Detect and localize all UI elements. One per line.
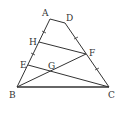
label-E: E bbox=[20, 60, 27, 70]
label-F: F bbox=[89, 48, 95, 58]
label-G: G bbox=[48, 61, 55, 71]
label-D: D bbox=[66, 13, 73, 23]
geometry-diagram: A D H F E G B C bbox=[0, 0, 125, 113]
segment-AD bbox=[50, 19, 65, 23]
label-H: H bbox=[29, 37, 37, 47]
label-B: B bbox=[9, 90, 16, 100]
segment-DC bbox=[65, 23, 109, 87]
label-C: C bbox=[108, 90, 115, 100]
segment-AB bbox=[17, 19, 50, 87]
label-A: A bbox=[41, 8, 49, 18]
